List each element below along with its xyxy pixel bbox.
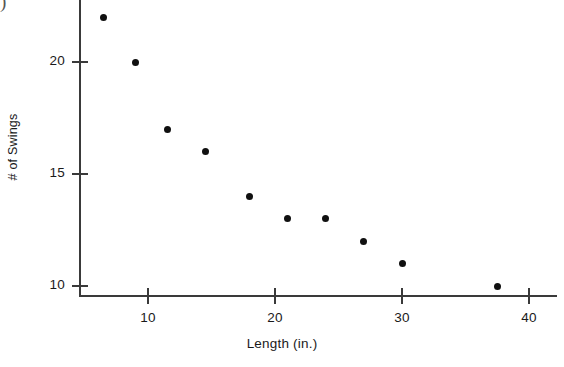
y-tick-10	[72, 285, 88, 287]
data-point	[164, 126, 171, 133]
x-tick-label-30: 30	[382, 310, 422, 325]
x-tick-label-10: 10	[128, 310, 168, 325]
scatter-plot-figure: ) 101520 10203040 Length (in.) # of Swin…	[0, 0, 564, 367]
x-tick-label-20: 20	[255, 310, 295, 325]
y-axis-line	[79, 0, 81, 297]
y-tick-label-15: 15	[31, 165, 65, 180]
y-tick-label-20: 20	[31, 53, 65, 68]
x-tick-40	[528, 288, 530, 304]
x-tick-10	[147, 288, 149, 304]
data-point	[284, 215, 291, 222]
y-tick-20	[72, 61, 88, 63]
x-tick-label-40: 40	[509, 310, 549, 325]
x-tick-20	[274, 288, 276, 304]
data-point	[202, 148, 209, 155]
x-axis-title: Length (in.)	[0, 336, 564, 351]
data-point	[322, 215, 329, 222]
x-axis-line	[79, 295, 557, 297]
data-point	[246, 193, 253, 200]
data-point	[399, 260, 406, 267]
scan-artifact-glyph: )	[0, 0, 6, 13]
data-point	[360, 238, 367, 245]
data-point	[132, 59, 139, 66]
y-tick-15	[72, 173, 88, 175]
y-axis-title: # of Swings	[6, 97, 20, 197]
x-tick-30	[401, 288, 403, 304]
data-point	[100, 14, 107, 21]
y-tick-label-10: 10	[31, 277, 65, 292]
data-point	[494, 283, 501, 290]
